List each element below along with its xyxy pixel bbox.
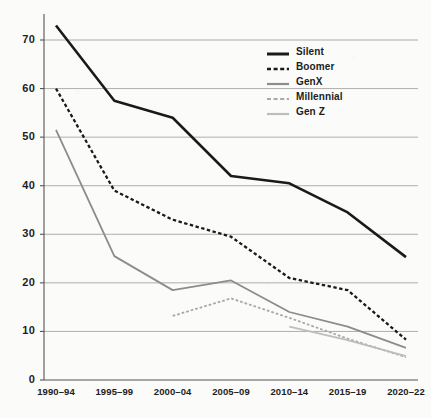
legend-item-millennial[interactable]: Millennial <box>267 89 343 104</box>
legend-label: Millennial <box>296 91 343 102</box>
y-tick-label-70: 70 <box>0 33 35 45</box>
legend-label: Silent <box>296 46 324 57</box>
y-tick-label-10: 10 <box>0 324 35 336</box>
x-tick-label-0: 1990–94 <box>26 386 86 397</box>
legend-swatch-genx-icon <box>267 76 289 88</box>
series-line-silent <box>56 25 406 257</box>
legend-swatch-silent-icon <box>267 46 289 58</box>
legend-swatch-boomer-icon <box>267 61 289 73</box>
legend-item-boomer[interactable]: Boomer <box>267 59 343 74</box>
series-lines <box>56 25 406 357</box>
legend-item-silent[interactable]: Silent <box>267 44 343 59</box>
axis-lines <box>40 14 418 380</box>
x-tick-label-5: 2015–19 <box>318 386 378 397</box>
y-tick-label-0: 0 <box>0 373 35 385</box>
x-tick-label-1: 1995–99 <box>84 386 144 397</box>
line-chart: 706050403020100 1990–941995–992000–04200… <box>0 0 431 418</box>
legend-item-gen-z[interactable]: Gen Z <box>267 104 343 119</box>
series-line-genx <box>56 130 406 348</box>
y-tick-label-50: 50 <box>0 130 35 142</box>
plot-area <box>0 0 431 418</box>
legend-label: GenX <box>296 76 323 87</box>
chart-legend: SilentBoomerGenXMillennialGen Z <box>267 44 343 119</box>
legend-item-genx[interactable]: GenX <box>267 74 343 89</box>
x-tick-label-2: 2000–04 <box>143 386 203 397</box>
series-line-boomer <box>56 89 406 340</box>
y-tick-label-60: 60 <box>0 82 35 94</box>
legend-swatch-gen-z-icon <box>267 106 289 118</box>
x-tick-label-3: 2005–09 <box>201 386 261 397</box>
x-tick-label-4: 2010–14 <box>259 386 319 397</box>
legend-swatch-millennial-icon <box>267 91 289 103</box>
series-line-millennial <box>173 298 406 357</box>
y-tick-label-30: 30 <box>0 227 35 239</box>
y-tick-label-20: 20 <box>0 276 35 288</box>
legend-label: Boomer <box>296 61 334 72</box>
y-tick-label-40: 40 <box>0 179 35 191</box>
x-tick-label-6: 2020–22 <box>376 386 431 397</box>
legend-label: Gen Z <box>296 106 325 117</box>
